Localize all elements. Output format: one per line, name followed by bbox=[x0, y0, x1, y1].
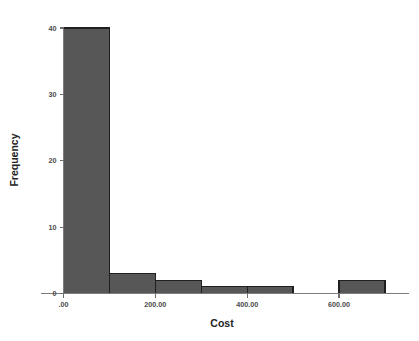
x-tick-label: 600.00 bbox=[328, 300, 350, 309]
x-tick-label: .00 bbox=[59, 300, 69, 309]
x-tick-label: 400.00 bbox=[236, 300, 258, 309]
histogram-bar bbox=[64, 28, 110, 294]
y-tick-label: 10 bbox=[49, 223, 57, 232]
chart-canvas: 010203040 .00200.00400.00600.00 Cost Fre… bbox=[0, 0, 419, 341]
histogram-bar bbox=[155, 280, 201, 293]
y-tick-label: 30 bbox=[49, 90, 57, 99]
x-axis-title: Cost bbox=[210, 317, 234, 329]
histogram-chart: 010203040 .00200.00400.00600.00 Cost Fre… bbox=[0, 0, 419, 341]
histogram-bar bbox=[339, 280, 385, 293]
y-tick-label: 40 bbox=[49, 24, 57, 33]
y-axis-title: Frequency bbox=[8, 133, 20, 186]
histogram-bar bbox=[201, 287, 247, 294]
y-tick-label: 20 bbox=[49, 156, 57, 165]
histogram-bar bbox=[109, 274, 155, 294]
y-tick-label: 0 bbox=[53, 289, 57, 298]
x-tick-label: 200.00 bbox=[144, 300, 166, 309]
histogram-bar bbox=[247, 287, 293, 294]
